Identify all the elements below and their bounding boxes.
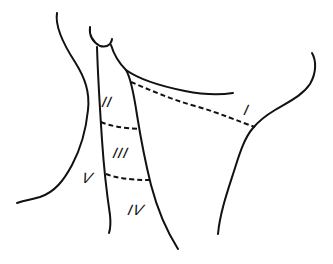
level-3-4-boundary-dashed bbox=[106, 174, 149, 180]
level-1-boundary-dashed bbox=[131, 82, 255, 127]
level-2-3-boundary-dashed bbox=[101, 122, 140, 129]
anterior-neck-contour bbox=[218, 53, 315, 234]
mandible-contour bbox=[111, 45, 233, 94]
posterior-neck-contour bbox=[17, 13, 88, 203]
neck-outline-drawing bbox=[0, 0, 333, 264]
sternocleidomastoid-anterior-border bbox=[126, 70, 178, 249]
neck-levels-diagram: II I III V IV bbox=[0, 0, 333, 264]
earlobe-contour bbox=[90, 27, 112, 46]
sternocleidomastoid-posterior-border bbox=[97, 47, 110, 233]
